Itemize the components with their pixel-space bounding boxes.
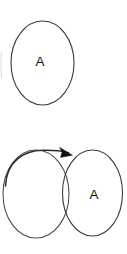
diagram-canvas: A A xyxy=(0,0,127,254)
top-figure-group: A xyxy=(11,21,74,105)
transition-arrow-curve xyxy=(6,150,69,186)
bottom-right-state-label: A xyxy=(89,187,98,202)
scan-artifact-mark xyxy=(1,52,2,78)
transition-arrowhead-icon xyxy=(60,147,73,157)
bottom-figure-group: A xyxy=(3,147,123,238)
top-state-label: A xyxy=(35,54,44,69)
diagram-svg: A A xyxy=(0,0,127,254)
